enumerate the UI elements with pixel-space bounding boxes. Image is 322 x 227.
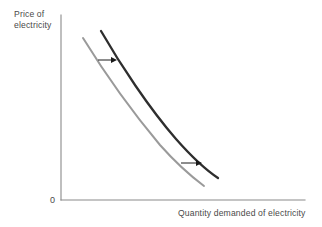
shifted-demand-curve <box>101 31 218 178</box>
demand-shift-figure: Price of electricity 0 Quantity demanded… <box>0 0 322 227</box>
upper-shift-arrow <box>98 57 117 63</box>
lower-shift-arrow <box>181 160 202 166</box>
origin-label: 0 <box>50 195 55 205</box>
y-axis-label-line2: electricity <box>14 20 52 30</box>
figure-canvas: Price of electricity 0 Quantity demanded… <box>0 0 322 227</box>
y-axis-label-line1: Price of <box>14 9 45 19</box>
x-axis-label: Quantity demanded of electricity <box>178 208 306 218</box>
